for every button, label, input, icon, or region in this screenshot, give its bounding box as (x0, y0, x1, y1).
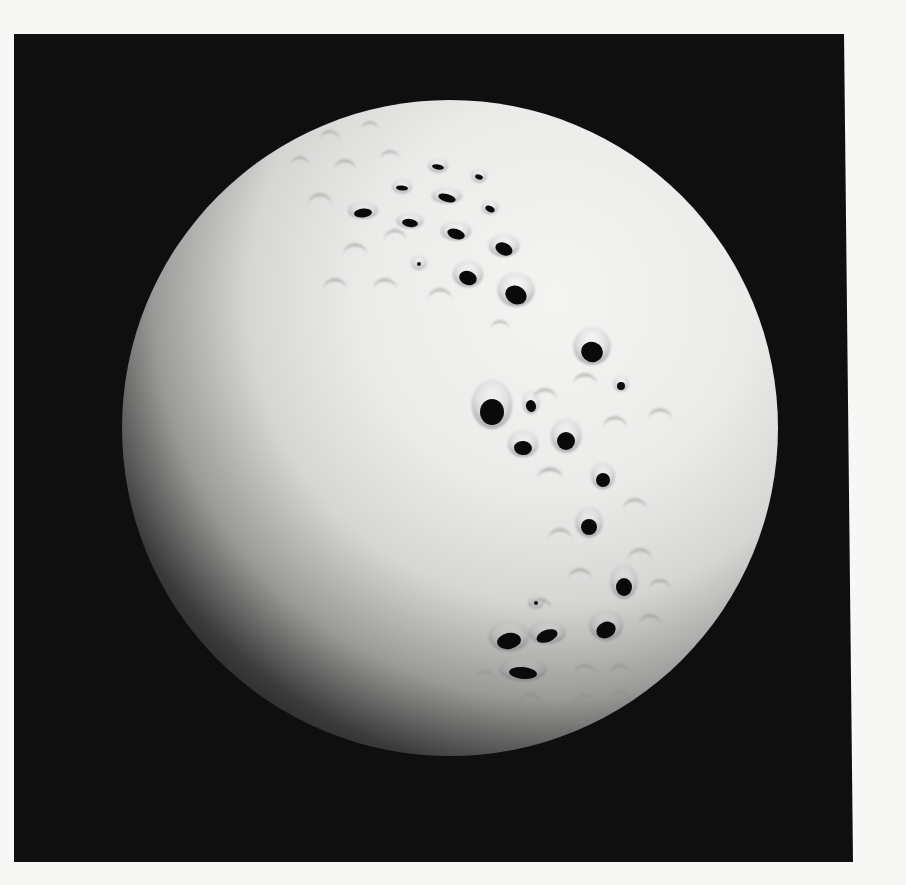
perforation-hole (551, 419, 582, 453)
perforation-hole (573, 327, 610, 365)
perforation-hole (523, 391, 540, 414)
perforation-hole (411, 256, 427, 270)
perforation-hole (499, 658, 547, 681)
perforation-hole (396, 213, 423, 228)
perforation-hole (489, 621, 530, 651)
perforation-hole (472, 380, 513, 429)
perforation-hole (471, 169, 487, 183)
perforation-hole (528, 595, 544, 609)
perforation-hole (591, 463, 615, 490)
perforation-hole (508, 431, 539, 458)
perforation-hole (482, 200, 499, 214)
perforation-hole (392, 180, 412, 194)
photograph (0, 0, 906, 885)
perforation-hole (348, 202, 379, 219)
perforation-hole (610, 565, 637, 599)
perforation-hole (575, 507, 602, 537)
perforation-hole (428, 159, 448, 173)
perforation-hole (613, 376, 629, 391)
